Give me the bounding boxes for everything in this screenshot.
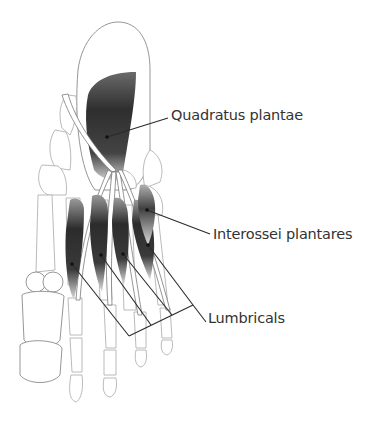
foot-illustration [0, 0, 378, 428]
label-quadratus-plantae: Quadratus plantae [171, 107, 303, 123]
label-lumbricals: Lumbricals [208, 310, 285, 326]
lesser-toe-bones [68, 298, 173, 402]
marker-quadratus-plantae [105, 135, 109, 139]
marker-interossei-plantares [145, 208, 149, 212]
hallux-bones [20, 272, 64, 383]
label-interossei-plantares: Interossei plantares [213, 226, 352, 242]
foot-anatomy-figure: Quadratus plantae Interossei plantares L… [0, 0, 378, 428]
